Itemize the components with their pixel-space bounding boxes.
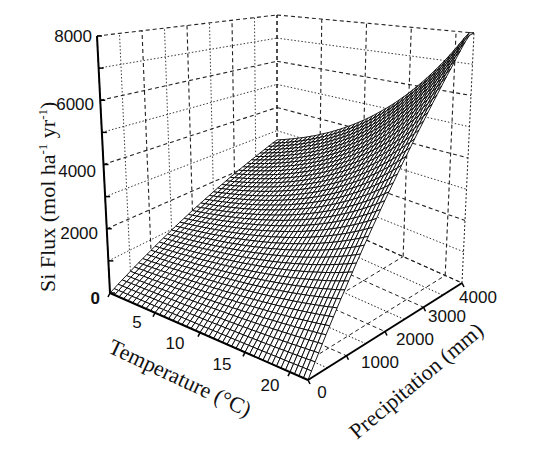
wall-left-horizontal (100, 61, 277, 100)
x-tick-5: 5 (132, 313, 141, 332)
y-tick-4000: 4000 (459, 288, 497, 307)
y-tick-3000: 3000 (428, 307, 466, 326)
y-tick-0: 0 (317, 383, 326, 402)
x-tick-10: 10 (166, 334, 185, 353)
z-tick-4000: 4000 (58, 162, 96, 181)
precipitation-tick-mark (462, 283, 464, 287)
surface-plot: 8000 6000 4000 2000 0 5 10 15 20 0 1000 … (0, 0, 550, 455)
wall-right-horizontal (277, 38, 473, 64)
z-tick-8000: 8000 (54, 27, 92, 46)
precipitation-tick-mark (347, 356, 349, 360)
precipitation-tick-mark (308, 380, 310, 384)
wall-left-vertical (165, 28, 173, 258)
temperature-tick-mark (198, 333, 200, 337)
z-tick-0: 0 (91, 289, 100, 308)
y-tick-2000: 2000 (396, 330, 434, 349)
precipitation-tick-mark (385, 332, 387, 336)
z-tick-6000: 6000 (56, 95, 94, 114)
y-tick-1000: 1000 (361, 353, 399, 372)
precipitation-tick-mark (424, 307, 426, 311)
wall-right-horizontal (277, 15, 474, 33)
z-axis-title: Si Flux (mol ha-1 yr-1) (35, 102, 60, 292)
surface-mesh (110, 33, 474, 380)
x-tick-20: 20 (261, 376, 280, 395)
wall-left-horizontal (104, 108, 278, 165)
temperature-tick-mark (243, 352, 245, 356)
temperature-tick-mark (108, 293, 110, 297)
temperature-tick-mark (288, 372, 290, 376)
x-tick-15: 15 (213, 355, 232, 374)
z-tick-2000: 2000 (60, 224, 98, 243)
temperature-tick-mark (153, 313, 155, 317)
